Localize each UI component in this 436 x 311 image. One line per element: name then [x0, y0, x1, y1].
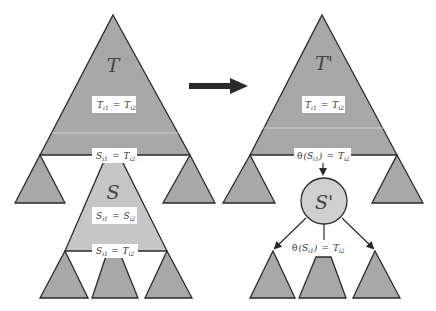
tree-T-prime-triangle	[250, 15, 397, 155]
left-subtree-1	[15, 155, 65, 203]
left-subtree-2	[163, 155, 215, 203]
tree-T-prime-boundary-label: θ(Si1)=Ti2	[294, 148, 351, 163]
tree-S-triangle	[65, 161, 167, 251]
tree-S-inner-label: Si1=Si2	[92, 207, 137, 224]
s-prime-subtree-3	[353, 251, 400, 298]
s-subtree-2	[92, 256, 138, 298]
tree-T-inner-label: Ti1=Ti2	[92, 96, 136, 113]
tree-T-boundary-label: Si1=Ti2	[92, 148, 137, 163]
s-prime-subtree-1	[250, 251, 295, 298]
right-subtree-1	[223, 155, 275, 203]
tree-S-boundary-label: Si1=Ti2	[92, 244, 138, 258]
s-prime-subtree-2	[299, 257, 346, 298]
tree-S-name: S	[106, 181, 119, 203]
tree-transformation-diagram: T Ti1=Ti2 S Si1=Ti2 Si1=Si2 Si1=Ti2	[0, 0, 436, 311]
left-tree-group: T Ti1=Ti2 S Si1=Ti2 Si1=Si2 Si1=Ti2	[15, 15, 215, 298]
right-tree-group: T' Ti1=Ti2 θ(Si1)=Ti2 S' θ(Si1)=Ti2	[223, 15, 423, 298]
tree-T-name: T	[107, 54, 121, 76]
s-subtree-1	[40, 251, 88, 298]
tree-T-prime-inner-label: Ti1=Ti2	[302, 96, 345, 113]
node-S-prime-child-label: θ(Si1)=Ti2	[290, 240, 350, 255]
right-subtree-2	[372, 155, 423, 203]
s-subtree-3	[145, 251, 192, 298]
right-arrow-icon	[189, 78, 248, 94]
tree-T-triangle	[40, 15, 190, 155]
tree-T-prime-name: T'	[315, 52, 333, 74]
svg-text:Si1=Si2: Si1=Si2	[96, 211, 136, 222]
node-S-prime-name: S'	[315, 191, 333, 213]
